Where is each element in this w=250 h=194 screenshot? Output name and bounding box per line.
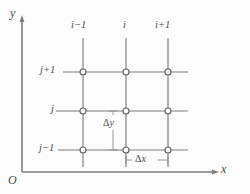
grid-node (80, 69, 86, 75)
grid-node (123, 108, 129, 114)
delta-y-label: Δy (103, 118, 114, 128)
column-label-i: i (123, 20, 126, 31)
origin-label: O (8, 174, 17, 186)
row-label-j: j (51, 104, 54, 115)
delta-y-variable: y (109, 117, 113, 128)
row-label-j-plus-1: j+1 (40, 65, 55, 76)
y-axis-arrowhead (20, 15, 25, 22)
grid-node (80, 147, 86, 153)
finite-difference-grid-figure: y x O i−1 i i+1 j+1 j j−1 Δy Δx (0, 0, 250, 194)
grid-node (165, 69, 171, 75)
grid-node (165, 108, 171, 114)
y-axis-label: y (10, 7, 15, 19)
column-label-i-minus-1: i−1 (71, 20, 86, 31)
grid-node (80, 108, 86, 114)
delta-x-variable: x (141, 153, 145, 164)
x-axis-label: x (221, 163, 226, 175)
delta-x-dimension (126, 153, 168, 167)
row-label-j-minus-1: j−1 (39, 143, 54, 154)
x-axis-arrowhead (212, 170, 219, 175)
column-label-i-plus-1: i+1 (155, 20, 170, 31)
grid-node (123, 69, 129, 75)
delta-x-label: Δx (135, 154, 146, 164)
grid-node (165, 147, 171, 153)
grid-node (123, 147, 129, 153)
